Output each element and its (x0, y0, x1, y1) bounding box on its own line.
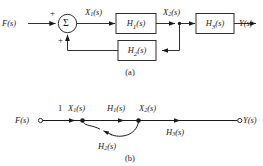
feedback-path-return (68, 47, 119, 51)
sfg-curve-H2-tail (83, 122, 100, 129)
sfg-node-Y (238, 118, 242, 122)
label-signal-X2: X2(s) (163, 8, 180, 17)
sfg-gain-label-H1: H1(s) (107, 104, 125, 113)
sfg-curve-H2 (111, 122, 139, 137)
sfg-gain-label-1: 1 (58, 104, 62, 113)
sfg-label-source-F: F(s) (15, 116, 29, 125)
sfg-gain-label-H3: H3(s) (166, 128, 184, 137)
sfg-node-F (38, 118, 42, 122)
sfg-label-node-X2: X2(s) (139, 104, 156, 113)
sigma-symbol: Σ (63, 18, 69, 28)
sfg-label-node-X1: X1(s) (68, 104, 85, 113)
sfg-node-X1 (80, 118, 85, 123)
label-output-Y: Y(s) (239, 19, 253, 28)
label-block-H2: H2(s) (118, 46, 156, 58)
label-block-H1: H1(s) (116, 19, 156, 31)
caption-panel-a: (a) (112, 68, 148, 77)
sfg-label-sink-Y: Y(s) (243, 116, 257, 125)
sfg-arrow-H2 (104, 131, 113, 135)
sign-plus-top: + (50, 9, 55, 18)
figure-container: F(s) + + Σ X1(s) H1(s) X2(s) H3(s) Y(s) … (0, 0, 263, 166)
sfg-gain-label-H2: H2(s) (98, 142, 116, 151)
label-block-H3: H3(s) (196, 19, 234, 31)
sign-plus-bottom: + (58, 36, 63, 45)
label-input-F: F(s) (2, 19, 16, 28)
label-signal-X1: X1(s) (85, 8, 102, 17)
caption-panel-b: (b) (112, 154, 148, 163)
